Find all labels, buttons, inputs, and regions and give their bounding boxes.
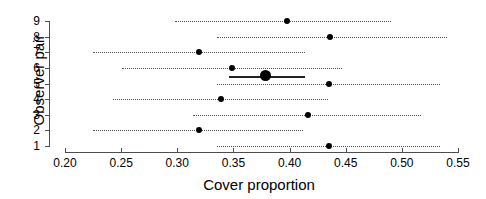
x-tick-label: 0.45 — [316, 156, 376, 170]
x-tick-mark — [402, 148, 403, 153]
estimate-point-marker — [327, 34, 333, 40]
x-tick-mark — [121, 148, 122, 153]
estimate-point-marker — [229, 65, 235, 71]
y-tick-label: 6 — [0, 62, 40, 74]
x-tick-label: 0.55 — [428, 156, 486, 170]
y-tick-mark — [45, 52, 49, 53]
y-tick-label: 1 — [0, 140, 40, 152]
y-tick-mark — [45, 37, 49, 38]
estimate-point-marker — [218, 96, 224, 102]
y-tick-mark — [45, 115, 49, 116]
x-tick-mark — [458, 148, 459, 153]
summary-point-marker — [260, 70, 271, 81]
x-tick-mark — [65, 148, 66, 153]
forest-plot: Observer pair Cover proportion 987654321… — [0, 0, 486, 199]
estimate-point-marker — [196, 127, 202, 133]
y-tick-mark — [45, 68, 49, 69]
y-tick-label: 4 — [0, 93, 40, 105]
x-axis-line — [65, 152, 458, 153]
x-tick-label: 0.25 — [91, 156, 151, 170]
y-tick-mark — [45, 146, 49, 147]
x-axis-label: Cover proportion — [49, 176, 469, 193]
estimate-point-marker — [284, 18, 290, 24]
x-tick-label: 0.30 — [147, 156, 207, 170]
y-tick-label: 2 — [0, 124, 40, 136]
y-tick-label: 9 — [0, 15, 40, 27]
y-tick-label: 7 — [0, 46, 40, 58]
y-axis-line — [49, 21, 50, 147]
estimate-point-marker — [326, 81, 332, 87]
estimate-point-marker — [326, 143, 332, 149]
y-tick-mark — [45, 130, 49, 131]
y-tick-label: 5 — [0, 78, 40, 90]
x-tick-mark — [177, 148, 178, 153]
y-tick-label: 8 — [0, 31, 40, 43]
y-tick-mark — [45, 84, 49, 85]
x-tick-label: 0.40 — [260, 156, 320, 170]
x-tick-mark — [233, 148, 234, 153]
estimate-point-marker — [305, 112, 311, 118]
y-tick-label: 3 — [0, 109, 40, 121]
y-tick-mark — [45, 99, 49, 100]
x-tick-label: 0.50 — [372, 156, 432, 170]
estimate-point-marker — [196, 49, 202, 55]
x-tick-mark — [346, 148, 347, 153]
confidence-interval-line — [175, 21, 391, 22]
x-tick-label: 0.35 — [203, 156, 263, 170]
x-tick-label: 0.20 — [35, 156, 95, 170]
x-tick-mark — [290, 148, 291, 153]
y-tick-mark — [45, 21, 49, 22]
